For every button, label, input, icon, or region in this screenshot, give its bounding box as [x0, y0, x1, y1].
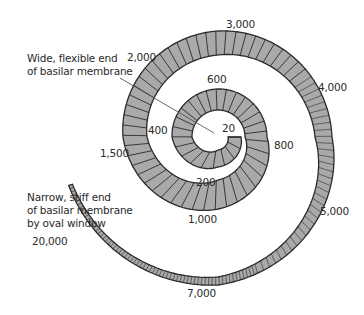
basilar-membrane-spiral [0, 0, 364, 315]
wide-end-line-1: Wide, flexible end [27, 52, 133, 65]
freq-label-20000: 20,000 [32, 235, 68, 247]
narrow-end-line-1: Narrow, stiff end [27, 191, 133, 204]
wide-end-line-2: of basilar membrane [27, 65, 133, 78]
freq-label-5000: 5,000 [320, 205, 349, 217]
freq-label-800: 800 [274, 139, 293, 151]
freq-label-200: 200 [196, 176, 215, 188]
narrow-end-line-3: by oval window [27, 217, 133, 230]
freq-label-1500: 1,500 [100, 147, 129, 159]
narrow-end-annotation: Narrow, stiff end of basilar membrane by… [27, 191, 133, 230]
narrow-end-line-2: of basilar membrane [27, 204, 133, 217]
freq-label-2000: 2,000 [127, 51, 156, 63]
freq-label-7000: 7,000 [187, 287, 216, 299]
freq-label-3000: 3,000 [226, 18, 255, 30]
segment-divider [216, 31, 217, 55]
freq-label-4000: 4,000 [318, 81, 347, 93]
wide-end-annotation: Wide, flexible end of basilar membrane [27, 52, 133, 78]
freq-label-1000: 1,000 [188, 213, 217, 225]
freq-label-600: 600 [207, 73, 226, 85]
freq-label-20: 20 [222, 122, 235, 134]
freq-label-400: 400 [148, 124, 167, 136]
